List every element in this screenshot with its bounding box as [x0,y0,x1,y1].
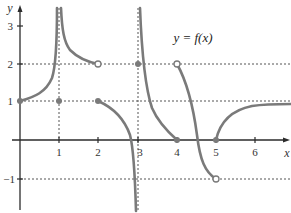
ticks [17,26,255,179]
x-axis-arrow-icon [283,138,290,143]
y-axis-arrow-icon [18,5,23,12]
curve-piece-5 [177,64,216,179]
y-tick-label: 2 [8,58,14,70]
open-points [95,61,219,182]
curve [20,8,291,211]
x-axis-label: x [283,146,290,160]
open-point [174,61,180,67]
y-tick-label: 1 [8,95,14,107]
y-tick-label: 3 [8,20,14,32]
closed-point [135,61,141,67]
open-point [95,61,101,67]
curve-piece-4 [140,8,177,140]
curve-piece-3 [98,101,136,211]
y-axis-label: y [6,1,13,15]
curve-piece-2 [61,8,98,64]
x-tick-label: 2 [95,146,101,158]
curve-piece-6 [216,104,291,140]
function-graph: 1 2 3 4 5 6 x 3 2 1 −1 y y = f(x) [0,0,291,213]
y-tick-label: −1 [3,173,15,185]
open-point [213,176,219,182]
x-tick-label: 5 [213,146,219,158]
x-tick-label: 6 [252,146,258,158]
x-tick-label: 4 [174,146,180,158]
x-tick-label: 1 [56,146,62,158]
curve-piece-1 [20,8,57,101]
grid-lines [20,8,291,211]
closed-point [17,98,23,104]
closed-points [17,61,219,143]
closed-point [95,98,101,104]
closed-point [174,137,180,143]
function-label: y = f(x) [171,30,212,45]
closed-point [213,137,219,143]
axes [12,10,286,210]
x-tick-label: 3 [137,146,143,158]
closed-point [56,98,62,104]
